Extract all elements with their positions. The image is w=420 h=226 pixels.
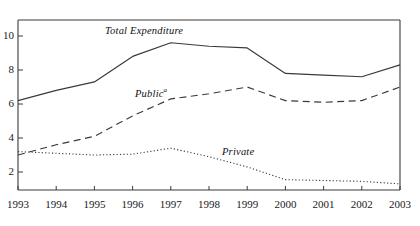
y-tick-label: 2 xyxy=(0,166,14,177)
series-label-private: Private xyxy=(222,146,254,157)
series-line-private xyxy=(18,148,400,184)
x-tick-label: 1997 xyxy=(151,199,191,210)
x-tick-label: 1993 xyxy=(0,199,38,210)
x-tick-label: 2003 xyxy=(380,199,420,210)
x-tick-label: 2001 xyxy=(304,199,344,210)
x-tick-label: 1999 xyxy=(227,199,267,210)
x-tick-label: 1998 xyxy=(189,199,229,210)
x-tick-label: 1994 xyxy=(36,199,76,210)
x-tick-label: 2000 xyxy=(265,199,305,210)
x-tick-label: 1996 xyxy=(113,199,153,210)
y-tick-label: 4 xyxy=(0,132,14,143)
x-tick-label: 2002 xyxy=(342,199,382,210)
y-tick-label: 10 xyxy=(0,30,14,41)
line-chart-plot xyxy=(0,0,420,226)
chart-container: 246810 199319941995199619971998199920002… xyxy=(0,0,420,226)
x-tick-label: 1995 xyxy=(74,199,114,210)
series-line-public xyxy=(18,87,400,155)
series-label-total-expenditure: Total Expenditure xyxy=(105,25,183,36)
series-line-total-expenditure xyxy=(18,43,400,101)
y-tick-label: 8 xyxy=(0,64,14,75)
y-tick-label: 6 xyxy=(0,98,14,109)
footnote-marker: a xyxy=(164,86,168,94)
series-label-public: Publica xyxy=(135,86,167,99)
